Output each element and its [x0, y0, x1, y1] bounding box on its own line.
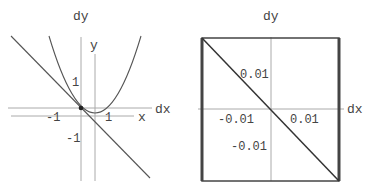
right-panel: dy dx 0.01 -0.01 -0.01 0.01	[198, 9, 363, 181]
tick-1-x: 1	[105, 111, 112, 125]
tick-pos-y: 0.01	[240, 68, 269, 82]
left-dy-label: dy	[73, 9, 89, 24]
tick-neg1-x: -1	[46, 111, 60, 125]
tick-1-y: 1	[72, 76, 79, 90]
right-dx-label: dx	[347, 102, 363, 117]
tangent-point	[79, 106, 84, 111]
tick-neg-y: -0.01	[231, 140, 267, 154]
tick-neg1-y: -1	[66, 132, 80, 146]
figure: dy dx y x 1 -1 -1 1 dy dx 0.01 -0.01 -0.…	[0, 0, 374, 189]
left-dx-label: dx	[155, 102, 171, 117]
right-dy-label: dy	[263, 9, 279, 24]
left-x-label: x	[138, 110, 146, 125]
tick-pos-x: 0.01	[290, 113, 319, 127]
left-y-label: y	[90, 38, 98, 53]
left-panel: dy dx y x 1 -1 -1 1	[8, 9, 171, 181]
tick-neg-x: -0.01	[218, 113, 254, 127]
